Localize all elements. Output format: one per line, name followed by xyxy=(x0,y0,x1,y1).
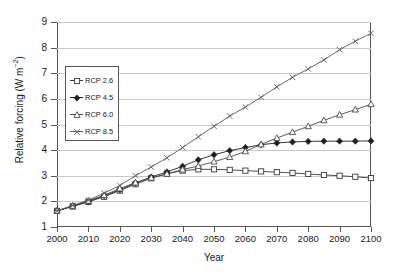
legend-item-rcp-2-6[interactable]: RCP 2.6 xyxy=(66,72,118,89)
legend-marker-icon xyxy=(70,75,83,86)
legend-label: RCP 4.5 xyxy=(85,93,113,102)
data-point-cross xyxy=(180,145,185,150)
data-point-open-square xyxy=(274,170,279,175)
data-point-open-triangle xyxy=(73,111,79,117)
data-point-cross xyxy=(337,47,342,52)
data-point-cross xyxy=(243,104,248,109)
legend-label: RCP 2.6 xyxy=(85,76,113,85)
data-point-open-square xyxy=(243,168,248,173)
data-point-filled-diamond xyxy=(305,138,311,144)
legend-item-rcp-6-0[interactable]: RCP 6.0 xyxy=(66,106,118,123)
data-point-filled-diamond xyxy=(337,138,343,144)
data-point-cross xyxy=(290,75,295,80)
data-point-open-triangle xyxy=(368,101,374,107)
chart-figure: 123456789 200020102020203020402050206020… xyxy=(0,0,403,275)
data-point-open-triangle xyxy=(242,148,248,154)
data-point-open-square xyxy=(337,173,342,178)
series-layer xyxy=(0,0,403,275)
data-point-cross xyxy=(149,164,154,169)
data-point-cross xyxy=(321,57,326,62)
y-axis-title: Relative forcing (W m−2) xyxy=(11,30,24,190)
data-point-cross xyxy=(211,124,216,129)
data-point-open-square xyxy=(227,167,232,172)
data-point-open-square xyxy=(211,167,216,172)
data-point-cross xyxy=(353,39,358,44)
series-rcp-2-6 xyxy=(54,167,373,214)
data-point-cross xyxy=(164,155,169,160)
legend-label: RCP 8.5 xyxy=(85,127,113,136)
data-point-cross xyxy=(306,66,311,71)
data-point-cross xyxy=(274,84,279,89)
data-point-open-square xyxy=(74,78,79,83)
data-point-cross xyxy=(196,134,201,139)
data-point-open-square xyxy=(290,170,295,175)
data-point-filled-diamond xyxy=(368,138,374,144)
legend-marker-icon xyxy=(70,126,83,137)
data-point-open-square xyxy=(306,171,311,176)
data-point-filled-diamond xyxy=(290,139,296,145)
data-point-cross xyxy=(258,95,263,100)
data-point-open-square xyxy=(353,174,358,179)
data-point-filled-diamond xyxy=(321,138,327,144)
legend-item-rcp-4-5[interactable]: RCP 4.5 xyxy=(66,89,118,106)
data-point-filled-diamond xyxy=(352,138,358,144)
data-point-open-square xyxy=(321,172,326,177)
legend-item-rcp-8-5[interactable]: RCP 8.5 xyxy=(66,123,118,140)
data-point-open-square xyxy=(259,169,264,174)
data-point-filled-diamond xyxy=(74,94,80,100)
legend-marker-icon xyxy=(70,92,83,103)
data-point-cross xyxy=(133,173,138,178)
legend-marker-icon xyxy=(70,109,83,120)
data-point-cross xyxy=(74,129,79,134)
data-point-open-square xyxy=(368,175,373,180)
x-axis-title: Year xyxy=(57,252,371,263)
data-point-cross xyxy=(368,31,373,36)
legend-label: RCP 6.0 xyxy=(85,110,113,119)
data-point-filled-diamond xyxy=(211,152,217,158)
chart-legend: RCP 2.6RCP 4.5RCP 6.0RCP 8.5 xyxy=(65,66,119,141)
data-point-cross xyxy=(227,113,232,118)
